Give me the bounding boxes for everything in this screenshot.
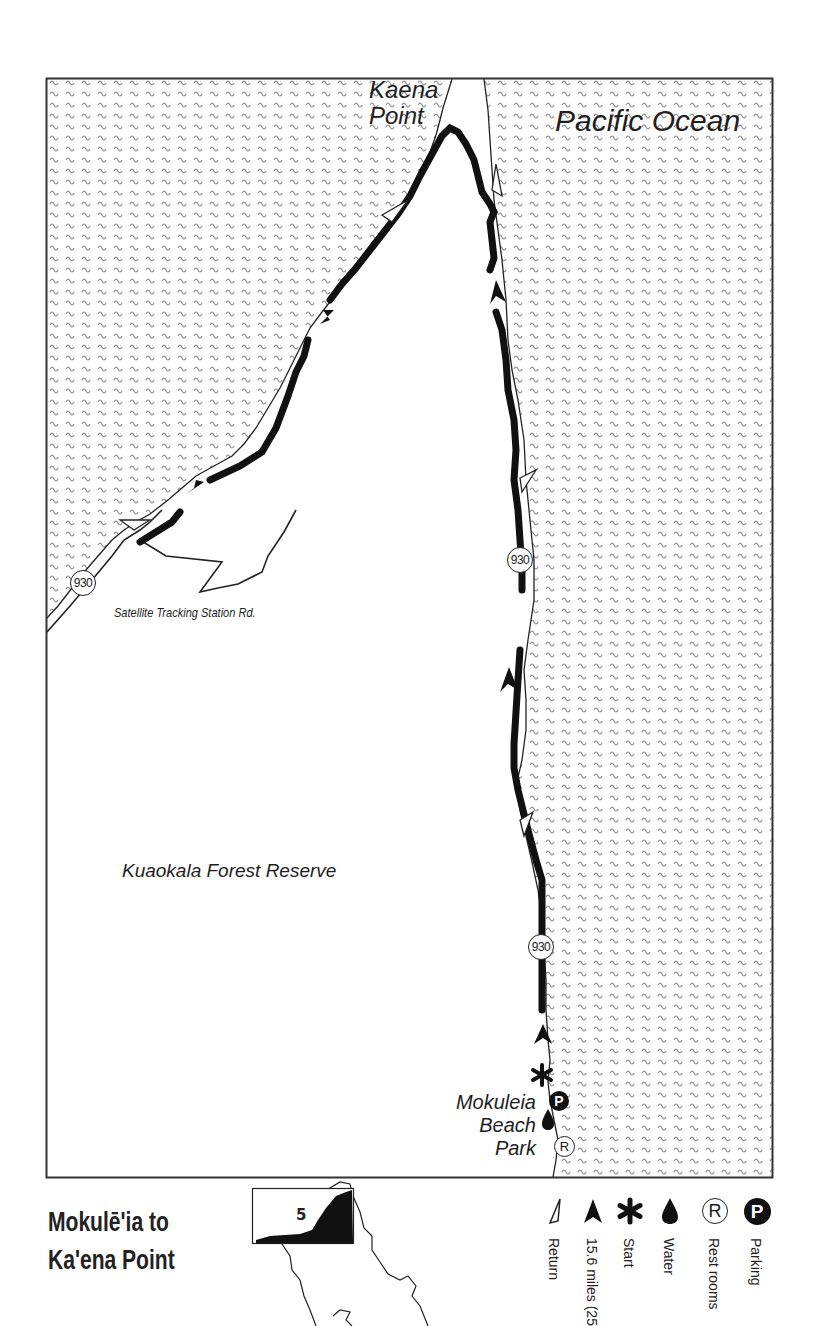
highway-930-shield: 930: [70, 570, 96, 596]
legend-label: Parking: [748, 1238, 764, 1285]
map-title-line1: Mokulē'ia to: [48, 1203, 175, 1241]
kaena-point-label-line2: Point: [369, 103, 438, 129]
inset-section-number: 5: [296, 1206, 306, 1224]
forest-reserve-label: Kuaokala Forest Reserve: [122, 860, 336, 882]
legend-item-water: Water: [655, 1196, 685, 1326]
map-title: Mokulē'ia to Ka'ena Point: [48, 1203, 175, 1279]
parking-symbol: P: [744, 1198, 771, 1225]
legend-label: Return: [546, 1238, 562, 1280]
map-title-line2: Ka'ena Point: [48, 1241, 175, 1279]
kaena-point-label-line1: Kaena: [369, 77, 438, 103]
restrooms-icon: R: [700, 1196, 730, 1226]
return-arrow-icon: [540, 1196, 570, 1226]
inset-locator-map: 5: [253, 1182, 429, 1326]
water-drop-icon: [655, 1196, 685, 1226]
highway-930-shield: 930: [507, 547, 533, 573]
beach-park-label-line2: Beach: [438, 1114, 536, 1137]
restrooms-icon: R: [554, 1136, 575, 1157]
legend-label: Start: [621, 1238, 637, 1268]
legend-item-start: Start: [615, 1196, 645, 1326]
beach-park-label-line3: Park: [438, 1137, 536, 1160]
legend-item-return: Return: [540, 1196, 570, 1326]
kaena-point-label: Kaena Point: [369, 77, 438, 129]
ocean-east: [484, 79, 772, 1177]
ocean-label: Pacific Ocean: [555, 104, 740, 138]
beach-park-label-line1: Mokuleia: [438, 1091, 536, 1114]
parking-icon: P: [742, 1196, 772, 1226]
beach-park-label: Mokuleia Beach Park: [438, 1091, 536, 1160]
legend-label: Rest rooms: [706, 1238, 722, 1310]
route-arrow-icon: [578, 1196, 608, 1226]
legend-label: 15.6 miles (25: [584, 1238, 600, 1326]
legend-item-restrooms: R Rest rooms: [700, 1196, 730, 1326]
legend-item-parking: P Parking: [742, 1196, 772, 1326]
legend-label: Water: [661, 1238, 677, 1275]
parking-icon: P: [549, 1091, 569, 1111]
restrooms-symbol: R: [702, 1198, 728, 1224]
ocean-west: [47, 79, 452, 618]
route-map: 5: [0, 0, 817, 1326]
start-asterisk-icon: [615, 1196, 645, 1226]
road-label: Satellite Tracking Station Rd.: [114, 605, 256, 620]
highway-930-shield: 930: [528, 934, 554, 960]
satellite-tracking-station-road: [140, 510, 296, 592]
legend-item-distance: 15.6 miles (25: [578, 1196, 608, 1326]
